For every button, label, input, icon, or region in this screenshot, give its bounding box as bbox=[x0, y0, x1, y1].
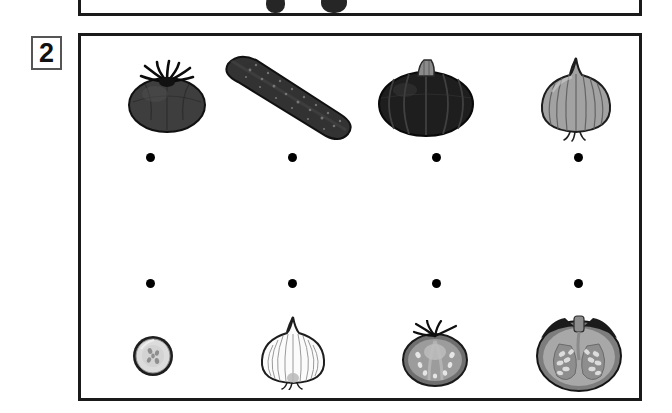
connector-dot-bottom-3[interactable] bbox=[432, 279, 441, 288]
tomato-whole-icon bbox=[117, 58, 217, 138]
worksheet-page: 2 bbox=[0, 0, 672, 413]
pumpkin-whole-icon bbox=[371, 54, 481, 139]
cucumber-whole-icon bbox=[216, 48, 361, 143]
vegetable-item-onion-half[interactable] bbox=[251, 312, 335, 390]
tomato-half-icon bbox=[396, 320, 474, 390]
vegetable-item-pumpkin-half[interactable] bbox=[531, 312, 627, 394]
connector-dot-top-3[interactable] bbox=[432, 153, 441, 162]
cucumber-slice-icon bbox=[126, 329, 180, 383]
onion-half-icon bbox=[251, 312, 335, 390]
connector-dot-bottom-2[interactable] bbox=[288, 279, 297, 288]
connector-dot-top-2[interactable] bbox=[288, 153, 297, 162]
clipped-vegetable-icon bbox=[266, 0, 285, 13]
connector-dot-top-1[interactable] bbox=[146, 153, 155, 162]
vegetable-item-cucumber-whole[interactable] bbox=[216, 48, 361, 143]
clipped-vegetable-icon bbox=[321, 0, 347, 13]
previous-exercise-panel bbox=[78, 0, 642, 16]
vegetable-item-pumpkin-whole[interactable] bbox=[371, 54, 481, 139]
vegetable-item-tomato-whole[interactable] bbox=[117, 58, 217, 138]
exercise-panel bbox=[78, 33, 642, 401]
vegetable-item-onion-whole[interactable] bbox=[526, 50, 626, 142]
pumpkin-half-icon bbox=[531, 312, 627, 394]
onion-whole-icon bbox=[526, 50, 626, 142]
connector-dot-bottom-4[interactable] bbox=[574, 279, 583, 288]
vegetable-item-cucumber-slice[interactable] bbox=[126, 329, 180, 383]
exercise-number-badge: 2 bbox=[31, 36, 62, 70]
connector-dot-top-4[interactable] bbox=[574, 153, 583, 162]
connector-dot-bottom-1[interactable] bbox=[146, 279, 155, 288]
vegetable-item-tomato-half[interactable] bbox=[396, 320, 474, 390]
